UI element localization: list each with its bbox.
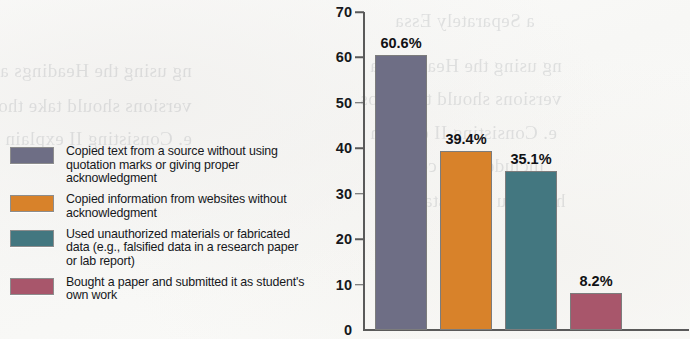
legend-swatch-icon bbox=[10, 147, 54, 164]
legend-swatch-icon bbox=[10, 278, 54, 295]
y-axis-tick-label: 60 bbox=[300, 49, 352, 65]
y-axis-tick-label: 0 bbox=[300, 322, 352, 338]
legend-item-label: Copied information from websites without… bbox=[66, 193, 310, 220]
y-axis-tick-mark bbox=[355, 102, 364, 104]
legend-item-label: Used unauthorized materials or fabricate… bbox=[66, 228, 310, 269]
y-axis-tick-mark bbox=[355, 148, 364, 150]
bar-value-label: 39.4% bbox=[445, 131, 486, 147]
chart-legend: Copied text from a source without using … bbox=[10, 145, 310, 310]
bar[interactable] bbox=[440, 151, 492, 330]
bar-value-label: 8.2% bbox=[579, 273, 612, 289]
y-axis-tick-label: 10 bbox=[300, 277, 352, 293]
bar[interactable] bbox=[375, 55, 427, 330]
legend-item[interactable]: Used unauthorized materials or fabricate… bbox=[10, 228, 310, 269]
y-axis-tick-mark bbox=[355, 238, 364, 240]
bar-series: 60.6%39.4%35.1%8.2% bbox=[363, 0, 690, 339]
bar-value-label: 60.6% bbox=[380, 35, 421, 51]
bar-value-label: 35.1% bbox=[510, 151, 551, 167]
y-axis-tick-label: 40 bbox=[300, 140, 352, 156]
scanned-chart-page: a Separately Essa ng using the Headings … bbox=[0, 0, 690, 339]
y-axis-tick-label: 20 bbox=[300, 231, 352, 247]
legend-item-label: Copied text from a source without using … bbox=[66, 145, 310, 186]
legend-item[interactable]: Copied text from a source without using … bbox=[10, 145, 310, 186]
legend-swatch-icon bbox=[10, 230, 54, 247]
legend-item-label: Bought a paper and submitted it as stude… bbox=[66, 276, 310, 303]
y-axis-tick-mark bbox=[355, 284, 364, 286]
y-axis-tick-mark bbox=[355, 57, 364, 59]
legend-swatch-icon bbox=[10, 195, 54, 212]
bleed-line: versions should take thos bbox=[0, 95, 192, 117]
y-axis-tick-mark bbox=[355, 193, 364, 195]
y-axis-tick-labels: 706050403020100 bbox=[300, 0, 352, 339]
legend-item[interactable]: Copied information from websites without… bbox=[10, 193, 310, 220]
bar[interactable] bbox=[570, 293, 622, 330]
bar[interactable] bbox=[505, 171, 557, 330]
legend-item[interactable]: Bought a paper and submitted it as stude… bbox=[10, 276, 310, 303]
bar-chart-plot-area: 706050403020100 60.6%39.4%35.1%8.2% bbox=[300, 0, 690, 339]
y-axis-tick-label: 70 bbox=[300, 4, 352, 20]
y-axis-tick-label: 30 bbox=[300, 186, 352, 202]
y-axis-tick-label: 50 bbox=[300, 95, 352, 111]
y-axis-tick-mark bbox=[355, 11, 364, 13]
bleed-line: ng using the Headings a bbox=[0, 60, 192, 82]
